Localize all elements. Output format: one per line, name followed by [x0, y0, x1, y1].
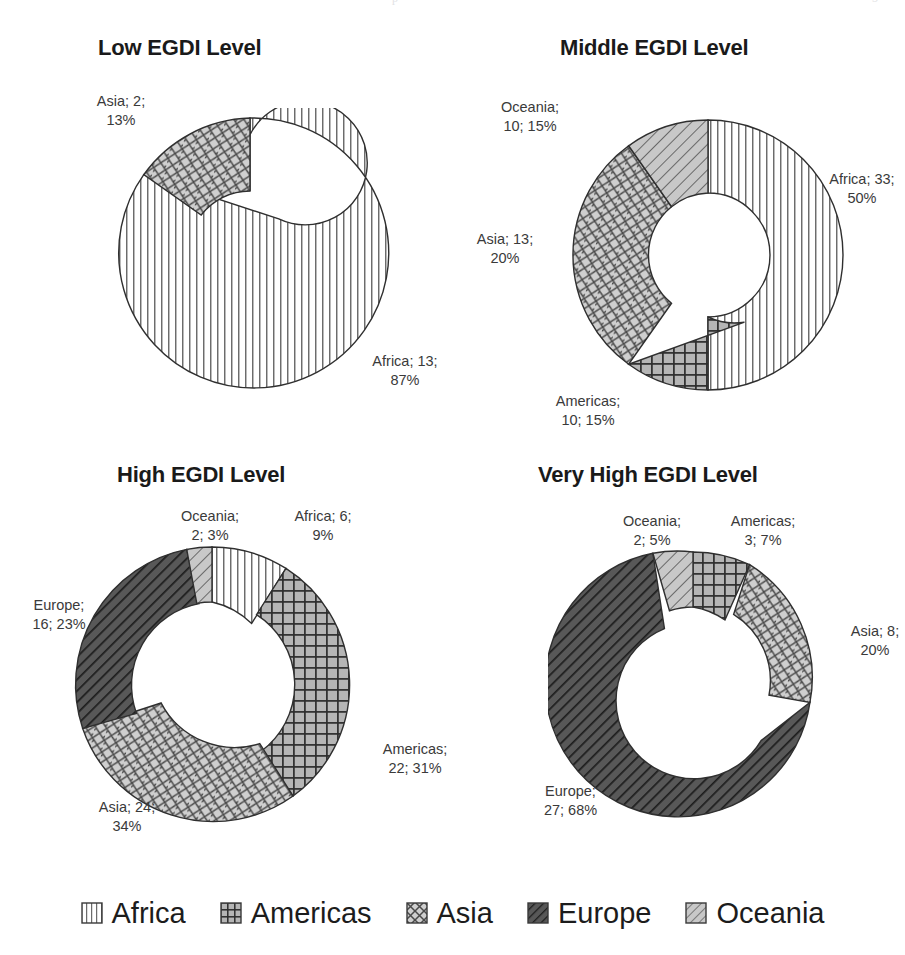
label-veryhigh-asia: Asia; 8; 20%	[830, 622, 905, 660]
label-middle-asia: Asia; 13; 20%	[450, 230, 560, 268]
legend-item-americas[interactable]: Americas	[220, 897, 372, 930]
legend-swatch-oceania-icon	[685, 902, 707, 924]
legend-label-asia: Asia	[437, 897, 493, 930]
legend-swatch-africa-icon	[81, 902, 103, 924]
label-middle-africa: Africa; 33; 50%	[812, 170, 905, 208]
label-high-africa: Africa; 6; 9%	[268, 507, 378, 545]
legend-label-americas: Americas	[251, 897, 372, 930]
label-high-oceania: Oceania; 2; 3%	[155, 507, 265, 545]
label-high-europe: Europe; 16; 23%	[4, 596, 114, 634]
label-high-americas: Americas; 22; 31%	[355, 740, 475, 778]
label-veryhigh-oceania: Oceania; 2; 5%	[597, 512, 707, 550]
slice-low-africa	[119, 108, 389, 388]
legend-swatch-americas-icon	[220, 902, 242, 924]
label-veryhigh-europe: Europe; 27; 68%	[513, 782, 628, 820]
legend-item-europe[interactable]: Europe	[527, 897, 652, 930]
figure-canvas: p 5	[0, 0, 905, 955]
donut-chart-middle	[563, 110, 853, 400]
slice-middle-africa	[708, 120, 843, 390]
chart-title-high: High EGDI Level	[117, 462, 285, 488]
label-middle-oceania: Oceania; 10; 15%	[470, 98, 590, 136]
slice-veryhigh-asia	[734, 565, 813, 703]
chart-title-low: Low EGDI Level	[98, 35, 261, 61]
label-veryhigh-americas: Americas; 3; 7%	[703, 512, 823, 550]
legend-item-oceania[interactable]: Oceania	[685, 897, 824, 930]
label-middle-americas: Americas; 10; 15%	[528, 392, 648, 430]
legend-item-africa[interactable]: Africa	[81, 897, 186, 930]
header-bleed-left: p	[392, 0, 398, 6]
chart-title-veryhigh: Very High EGDI Level	[538, 462, 758, 488]
slice-high-europe	[76, 549, 199, 728]
legend-label-europe: Europe	[558, 897, 652, 930]
chart-legend: Africa Americas Asia Europe Oceania	[0, 884, 905, 942]
chart-title-middle: Middle EGDI Level	[560, 35, 749, 61]
label-low-asia: Asia; 2; 13%	[66, 92, 176, 130]
legend-item-asia[interactable]: Asia	[406, 897, 493, 930]
donut-chart-high	[62, 535, 362, 835]
label-low-africa: Africa; 13; 87%	[335, 352, 475, 390]
legend-label-africa: Africa	[112, 897, 186, 930]
page-header-bleed: p 5	[0, 0, 905, 14]
legend-swatch-asia-icon	[406, 902, 428, 924]
legend-swatch-europe-icon	[527, 902, 549, 924]
legend-label-oceania: Oceania	[716, 897, 824, 930]
header-bleed-right: 5	[872, 0, 878, 6]
label-high-asia: Asia; 24; 34%	[72, 798, 182, 836]
